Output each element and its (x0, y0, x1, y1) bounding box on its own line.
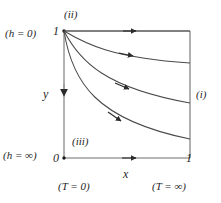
region-label-iii: (iii) (72, 136, 89, 147)
region-label-ii: (ii) (64, 9, 77, 20)
curve-direction-arrows (108, 31, 136, 158)
y-axis-label: y (43, 88, 48, 100)
figure-container: (h = 0) (h = ∞) (T = 0) (T = ∞) (ii) (ii… (0, 0, 221, 203)
characteristic-curves (64, 31, 190, 139)
tick-label-origin: 0 (53, 152, 59, 164)
tick-label-x-one: 1 (186, 152, 192, 164)
curve-mid (64, 31, 190, 103)
boundary-label-t-infinity: (T = ∞) (152, 181, 186, 192)
x-axis-label: x (123, 168, 128, 180)
boundary-label-h-infinity: (h = ∞) (3, 150, 37, 161)
curve-lower (64, 31, 190, 139)
tick-label-y-one: 1 (53, 25, 59, 37)
region-label-i: (i) (196, 89, 206, 100)
boundary-label-t-zero: (T = 0) (58, 181, 90, 192)
corner-point-bottom-left (62, 156, 65, 159)
boundary-label-h-zero: (h = 0) (5, 28, 36, 39)
arrow-curve-lower (108, 112, 121, 121)
